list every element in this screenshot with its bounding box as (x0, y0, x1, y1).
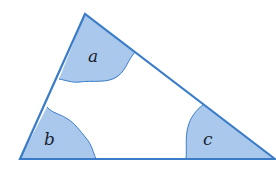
angle-label-a: a (88, 46, 98, 66)
triangle-diagram: a b c (0, 0, 276, 173)
angle-label-b: b (44, 129, 55, 149)
angle-region-c (186, 105, 275, 159)
angle-label-c: c (203, 129, 213, 149)
